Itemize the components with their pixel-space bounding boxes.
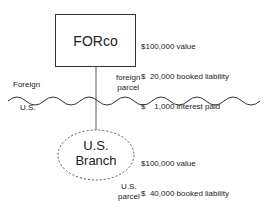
foreign-parcel-line2: parcel (116, 83, 140, 93)
forco-value: $100,000 value (141, 42, 229, 52)
us-parcel-line2: parcel (118, 192, 140, 202)
foreign-parcel-line1: foreign (116, 73, 140, 83)
us-parcel-label: U.S. parcel (118, 182, 140, 202)
us-branch-line2: Branch (58, 153, 134, 168)
us-branch-label: U.S. Branch (58, 138, 134, 168)
us-parcel-line1: U.S. (118, 182, 140, 192)
us-branch-details: $100,000 value $ 40,000 booked liability… (141, 139, 229, 211)
us-region-label: U.S. (20, 103, 36, 113)
forco-details: $100,000 value $ 20,000 booked liability… (141, 22, 229, 122)
forco-interest: $ 1,000 interest paid (141, 102, 229, 112)
foreign-region-label: Foreign (13, 80, 40, 90)
foreign-parcel-label: foreign parcel (116, 73, 140, 93)
forco-liability: $ 20,000 booked liability (141, 72, 229, 82)
forco-label: FORco (55, 14, 136, 67)
branch-liability: $ 40,000 booked liability (141, 189, 229, 199)
us-branch-line1: U.S. (58, 138, 134, 153)
branch-value: $100,000 value (141, 159, 229, 169)
